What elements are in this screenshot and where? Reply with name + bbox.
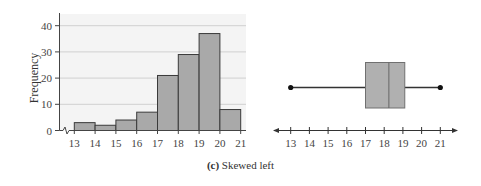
x-tick-label: 21 <box>235 137 246 149</box>
number-line-label: 18 <box>379 137 391 149</box>
x-tick-label: 17 <box>152 137 164 149</box>
x-axis-ticks: 131415161718192021 <box>69 131 246 150</box>
caption-text: Skewed left <box>219 159 274 171</box>
number-line-ticks: 131415161718192021 <box>285 127 446 149</box>
y-tick-label: 0 <box>47 125 53 137</box>
box-iqr <box>366 63 405 109</box>
histogram-bar <box>199 34 220 131</box>
boxplot-chart: 131415161718192021 <box>273 63 458 150</box>
y-axis-label: Frequency <box>27 53 41 104</box>
x-tick-label: 19 <box>194 137 206 149</box>
x-tick-label: 13 <box>69 137 81 149</box>
histogram-bar <box>220 110 241 131</box>
arrow-right-icon <box>452 128 458 133</box>
x-tick-label: 14 <box>90 137 102 149</box>
y-tick-label: 40 <box>41 20 53 32</box>
number-line-label: 21 <box>435 137 446 149</box>
number-line-label: 13 <box>285 137 297 149</box>
x-tick-label: 20 <box>214 137 226 149</box>
x-tick-label: 16 <box>131 137 143 149</box>
histogram-bar <box>116 120 137 130</box>
number-line-label: 17 <box>360 137 372 149</box>
histogram-bar <box>95 125 116 130</box>
histogram-bar <box>158 75 179 130</box>
x-tick-label: 15 <box>110 137 122 149</box>
min-point <box>288 85 293 90</box>
arrow-left-icon <box>273 128 279 133</box>
figure-caption: (c) Skewed left <box>0 159 481 171</box>
histogram-bar <box>178 55 199 131</box>
y-tick-label: 20 <box>41 72 53 84</box>
number-line-label: 19 <box>397 137 409 149</box>
histogram-chart: 010203040 131415161718192021 Frequency <box>27 13 246 149</box>
y-tick-label: 10 <box>41 98 53 110</box>
number-line-label: 14 <box>304 137 316 149</box>
histogram-bar <box>74 123 95 131</box>
x-tick-label: 18 <box>173 137 185 149</box>
max-point <box>438 85 443 90</box>
number-line-label: 20 <box>416 137 428 149</box>
y-tick-label: 30 <box>41 46 53 58</box>
y-axis-ticks: 010203040 <box>41 20 60 137</box>
histogram-bar <box>137 112 158 130</box>
caption-label: (c) <box>207 159 219 171</box>
number-line-label: 16 <box>341 137 353 149</box>
number-line-label: 15 <box>323 137 335 149</box>
